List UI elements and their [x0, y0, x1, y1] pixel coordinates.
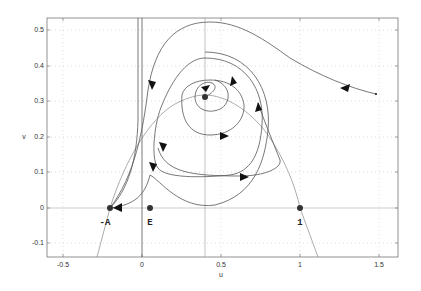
- equilibrium-one: [297, 205, 303, 211]
- y-tick-label: 0.4: [34, 62, 44, 69]
- y-axis-label: v: [22, 133, 26, 140]
- label-one: 1: [297, 218, 303, 228]
- y-tick-label: 0.3: [34, 97, 44, 104]
- x-tick-label: -0.5: [57, 261, 69, 268]
- equilibrium-e: [147, 205, 153, 211]
- y-tick-label: 0.5: [34, 26, 44, 33]
- x-tick-label: 0.5: [216, 261, 226, 268]
- phase-portrait-chart: -0.5 0 0.5 1 1.5 -0.1 0 0.1 0.2 0.3 0.4 …: [0, 0, 421, 291]
- equilibrium-neg-a: [107, 205, 113, 211]
- y-tick-label: 0.1: [34, 168, 44, 175]
- x-tick-label: 1: [298, 261, 302, 268]
- x-axis-label: u: [219, 271, 223, 278]
- x-tick-label: 1.5: [374, 261, 384, 268]
- trajectory-start-point: [375, 93, 377, 95]
- y-tick-label: 0.2: [34, 133, 44, 140]
- equilibrium-center: [202, 94, 208, 100]
- label-e: E: [147, 218, 153, 228]
- label-neg-a: -A: [100, 218, 111, 228]
- y-tick-label: 0: [40, 204, 44, 211]
- x-tick-label: 0: [140, 261, 144, 268]
- y-tick-label: -0.1: [32, 239, 44, 246]
